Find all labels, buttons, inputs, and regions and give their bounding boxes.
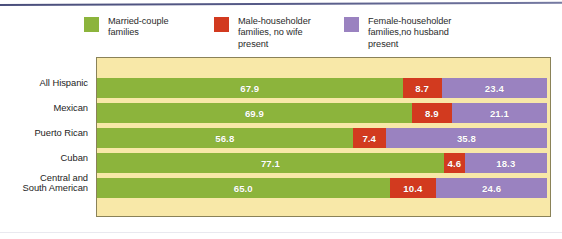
page-artifact-bottom	[0, 232, 562, 233]
bar-segment-value: 7.4	[362, 133, 376, 144]
chart-rows: All Hispanic67.98.723.4Mexican69.98.921.…	[0, 57, 562, 217]
stacked-bar: 69.98.921.1	[97, 103, 547, 123]
legend-item-2: Female-householder families,no husband p…	[344, 16, 451, 50]
bar-segment-value: 65.0	[234, 183, 253, 194]
row-category-label: All Hispanic	[0, 78, 88, 88]
row-category-label: Cuban	[0, 153, 88, 163]
bar-segment: 69.9	[97, 103, 412, 123]
row-category-label: Mexican	[0, 103, 88, 113]
legend-item-label: Male-householder families, no wife prese…	[238, 16, 311, 50]
chart-row: Puerto Rican56.87.435.8	[0, 128, 562, 148]
row-category-label: Central and South American	[0, 173, 88, 194]
bar-segment-value: 69.9	[245, 108, 264, 119]
bar-segment-value: 10.4	[403, 183, 422, 194]
bar-segment: 4.6	[444, 153, 465, 173]
bar-segment: 23.4	[442, 78, 547, 98]
bar-segment: 56.8	[97, 128, 353, 148]
legend-item-label: Married-couple families	[108, 16, 169, 39]
stacked-bar: 77.14.618.3	[97, 153, 547, 173]
bar-segment-value: 21.1	[490, 108, 509, 119]
legend-swatch-male-householder	[214, 17, 229, 32]
bar-segment-value: 67.9	[240, 83, 259, 94]
bar-segment-value: 23.4	[485, 83, 504, 94]
bar-segment-value: 35.8	[457, 133, 476, 144]
bar-segment: 8.9	[412, 103, 452, 123]
legend-item-1: Male-householder families, no wife prese…	[214, 16, 311, 50]
chart-row: Mexican69.98.921.1	[0, 103, 562, 123]
bar-segment: 67.9	[97, 78, 403, 98]
bar-segment-value: 8.9	[425, 108, 439, 119]
page-divider-rule-top	[0, 2, 562, 6]
bar-segment: 77.1	[97, 153, 444, 173]
chart-row: Cuban77.14.618.3	[0, 153, 562, 173]
bar-segment-value: 77.1	[261, 158, 280, 169]
chart-row: Central and South American65.010.424.6	[0, 178, 562, 198]
bar-segment: 35.8	[386, 128, 547, 148]
chart-row: All Hispanic67.98.723.4	[0, 78, 562, 98]
legend-item-label: Female-householder families,no husband p…	[368, 16, 451, 50]
stacked-bar: 65.010.424.6	[97, 178, 547, 198]
bar-segment: 21.1	[452, 103, 547, 123]
bar-segment-value: 24.6	[482, 183, 501, 194]
stacked-bar: 56.87.435.8	[97, 128, 547, 148]
legend-item-0: Married-couple families	[84, 16, 169, 39]
legend-swatch-married-couple	[84, 17, 99, 32]
bar-segment: 7.4	[353, 128, 386, 148]
legend-swatch-female-householder	[344, 17, 359, 32]
row-category-label: Puerto Rican	[0, 128, 88, 138]
bar-segment-value: 56.8	[215, 133, 234, 144]
stacked-bar: 67.98.723.4	[97, 78, 547, 98]
bar-segment: 18.3	[465, 153, 547, 173]
bar-segment-value: 8.7	[415, 83, 429, 94]
bar-segment: 10.4	[390, 178, 437, 198]
bar-segment: 65.0	[97, 178, 390, 198]
chart-legend: Married-couple familiesMale-householder …	[0, 16, 562, 56]
bar-segment-value: 4.6	[447, 158, 461, 169]
bar-segment: 24.6	[436, 178, 547, 198]
bar-segment: 8.7	[403, 78, 442, 98]
bar-segment-value: 18.3	[496, 158, 515, 169]
